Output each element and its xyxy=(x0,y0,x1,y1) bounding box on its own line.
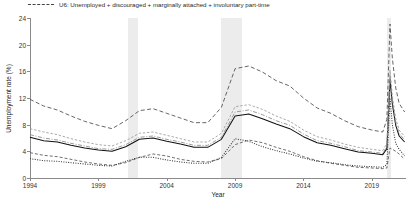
series-line-u6 xyxy=(30,24,405,132)
chart-root: U5: Unemployed + discouraged + marginall… xyxy=(0,0,412,213)
y-tick-mark xyxy=(27,45,30,46)
y-tick-label: 16 xyxy=(19,68,26,75)
series-line-u3 xyxy=(30,79,405,154)
legend-swatch-u6-icon xyxy=(28,4,54,5)
x-tick-label: 2004 xyxy=(159,182,173,189)
y-tick-label: 24 xyxy=(19,15,26,22)
x-axis-line xyxy=(30,178,406,179)
plot-area: 04812162024199419992004200920142019 xyxy=(30,18,406,178)
y-tick-label: 20 xyxy=(19,41,26,48)
x-tick-mark xyxy=(167,178,168,181)
x-axis-label: Year xyxy=(30,191,406,198)
y-tick-mark xyxy=(27,71,30,72)
y-tick-mark xyxy=(27,18,30,19)
y-tick-label: 0 xyxy=(22,175,26,182)
series-line-u2 xyxy=(30,98,405,167)
x-tick-label: 2019 xyxy=(365,182,379,189)
legend-item-u6: U6: Unemployed + discouraged + marginall… xyxy=(0,0,412,9)
y-tick-mark xyxy=(27,98,30,99)
y-tick-label: 8 xyxy=(22,121,26,128)
series-line-u1 xyxy=(30,140,405,169)
x-tick-label: 1999 xyxy=(91,182,105,189)
x-tick-mark xyxy=(235,178,236,181)
y-axis-label-text: Unemployment rate (%) xyxy=(5,64,12,133)
x-tick-label: 1994 xyxy=(23,182,37,189)
legend-label-u6: U6: Unemployed + discouraged + marginall… xyxy=(59,0,270,9)
y-tick-label: 4 xyxy=(22,148,26,155)
series-line-u5 xyxy=(30,70,405,151)
y-tick-label: 12 xyxy=(19,95,26,102)
x-tick-mark xyxy=(30,178,31,181)
x-tick-label: 2014 xyxy=(296,182,310,189)
y-tick-mark xyxy=(27,125,30,126)
series-canvas xyxy=(30,18,406,178)
x-tick-mark xyxy=(303,178,304,181)
x-tick-mark xyxy=(98,178,99,181)
x-tick-label: 2009 xyxy=(228,182,242,189)
y-axis-label: Unemployment rate (%) xyxy=(3,18,13,178)
x-tick-mark xyxy=(372,178,373,181)
chart-legend: U5: Unemployed + discouraged + marginall… xyxy=(0,0,412,13)
y-tick-mark xyxy=(27,151,30,152)
